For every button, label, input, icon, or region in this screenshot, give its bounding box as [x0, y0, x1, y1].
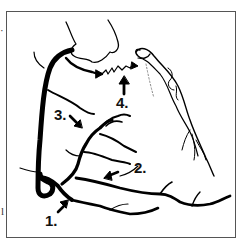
left-stub-branch: [20, 168, 38, 172]
arrow-4-icon: [119, 76, 129, 94]
arrow-2-icon: [104, 171, 118, 180]
label-2: 2.: [134, 160, 147, 175]
arrow-3-icon: [70, 116, 82, 128]
main-artery-trunk: [38, 50, 72, 196]
collateral-vessel-outer: [136, 49, 214, 176]
distal-branch-1: [182, 130, 190, 150]
distal-branch-2: [192, 134, 195, 160]
occluded-segment: [102, 64, 134, 74]
lower-sprig-1: [160, 182, 172, 194]
mid-branch-3: [84, 152, 130, 164]
label-4: 4.: [116, 95, 129, 110]
arrow-1-icon: [58, 200, 68, 212]
mid-branch-small: [66, 150, 80, 156]
aorta-outline: [66, 20, 118, 62]
label-1: 1.: [45, 213, 58, 228]
small-branch-top-left: [34, 52, 44, 68]
lower-long-branch: [76, 178, 230, 205]
arrowhead-right: [131, 62, 138, 69]
distal-branch-3: [196, 140, 206, 160]
faint-dotted-vessel: [146, 64, 154, 98]
vessel-wiggle-2: [176, 86, 178, 100]
label-3: 3.: [54, 107, 67, 122]
mid-branch-2: [100, 134, 136, 152]
coronary-artery-drawing: [0, 0, 242, 249]
arrowhead-left: [96, 70, 103, 78]
